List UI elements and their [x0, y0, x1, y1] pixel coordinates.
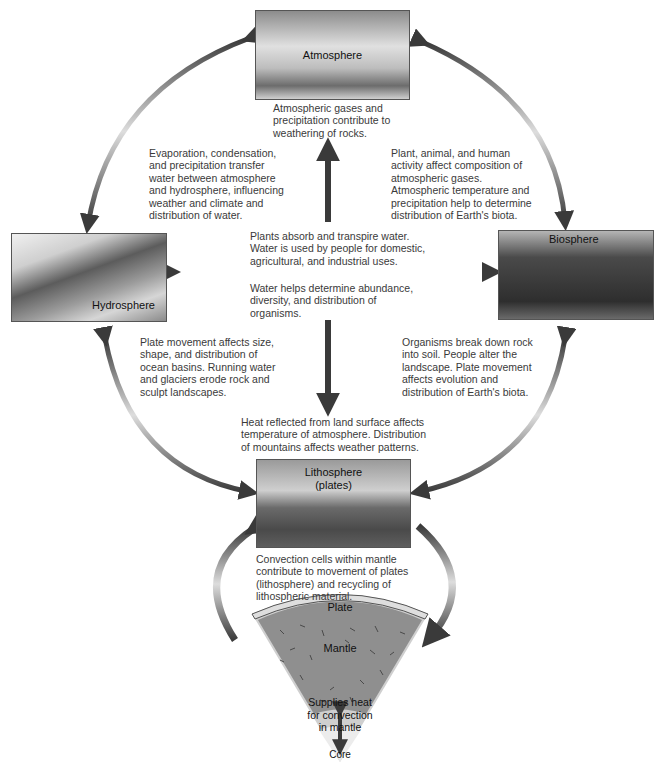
atmosphere-biosphere-text: Plant, animal, and human activity affect… — [391, 147, 532, 221]
biosphere-hydrosphere-text: Plants absorb and transpire water. Water… — [250, 230, 425, 267]
biosphere-label: Biosphere — [549, 233, 599, 246]
lithosphere-panel: Lithosphere (plates) — [256, 459, 411, 548]
atmosphere-hydrosphere-text: Evaporation, condensation, and precipita… — [149, 147, 284, 221]
plate-label: Plate — [315, 601, 365, 614]
atmosphere-lithosphere-text: Atmospheric gases and precipitation cont… — [273, 102, 390, 139]
hydrosphere-biosphere-text: Water helps determine abundance, diversi… — [250, 282, 413, 319]
mantle-label: Mantle — [310, 642, 370, 655]
lithosphere-label: Lithosphere (plates) — [257, 466, 410, 492]
mantle-convection-text: Convection cells within mantle contribut… — [256, 553, 408, 603]
lithosphere-atmosphere-text: Heat reflected from land surface affects… — [241, 416, 426, 453]
atmosphere-panel: Atmosphere — [255, 10, 410, 100]
core-heat-text: Supplies heat for convection in mantle — [290, 696, 390, 734]
earth-section-wedge — [252, 595, 428, 763]
hydrosphere-panel: Hydrosphere — [11, 233, 167, 322]
core-label: Core — [320, 748, 360, 761]
hydrosphere-label: Hydrosphere — [92, 299, 155, 312]
hydrosphere-lithosphere-text: Plate movement affects size, shape, and … — [140, 336, 275, 398]
atmosphere-label: Atmosphere — [256, 49, 409, 62]
arrow-convection-up — [217, 528, 255, 640]
biosphere-panel: Biosphere — [498, 230, 654, 320]
biosphere-lithosphere-text: Organisms break down rock into soil. Peo… — [402, 336, 533, 398]
